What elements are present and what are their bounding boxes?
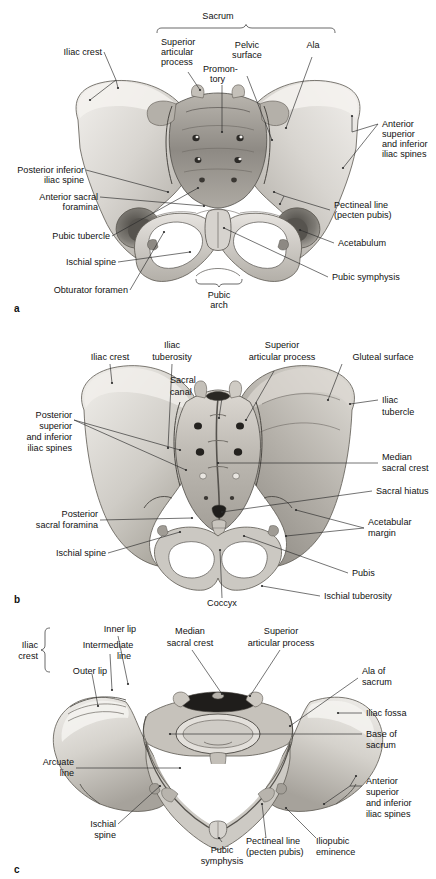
label-c-ala-of-sacrum-1: Ala of: [362, 666, 386, 676]
label-a-pelvic-surface-1: Pelvic: [235, 40, 260, 50]
label-a-acetabulum: Acetabulum: [338, 238, 386, 248]
label-b-ischial-tuberosity: Ischial tuberosity: [324, 591, 392, 601]
label-a-ala: Ala: [306, 40, 320, 50]
label-b-coccyx: Coccyx: [207, 598, 237, 608]
label-a-pectineal-line-2: (pecten pubis): [334, 210, 392, 220]
label-b-iliac-crest: Iliac crest: [91, 352, 130, 362]
label-b-posterior-spines-1: Posterior: [36, 410, 72, 420]
label-b-sacral-hiatus: Sacral hiatus: [376, 486, 429, 496]
label-a-anterior-spines-2: superior: [382, 129, 415, 139]
pelvis-anterior-illustration: [76, 80, 360, 281]
label-b-median-sacral-crest-2: sacral crest: [382, 463, 429, 473]
label-b-pubis: Pubis: [352, 568, 375, 578]
panel-letter-b: b: [14, 594, 20, 605]
label-b-posterior-sacral-foramina-2: sacral foramina: [36, 520, 99, 530]
label-c-intermediate-line-2: line: [117, 651, 131, 661]
label-b-acetabular-margin-1: Acetabular: [368, 517, 411, 527]
sacrum-brace: [157, 25, 335, 34]
label-a-anterior-spines-3: and inferior: [382, 139, 428, 149]
label-c-iliac-crest-2: crest: [18, 651, 38, 661]
label-a-anterior-sacral-foramina-1: Anterior sacral: [39, 192, 98, 202]
label-b-acetabular-margin-2: margin: [368, 528, 396, 538]
label-pubic-arch-line1: Pubic: [208, 290, 231, 300]
label-c-iliopubic-eminence-1: Iliopubic: [316, 836, 350, 846]
label-c-median-sacral-crest-1: Median: [175, 626, 205, 636]
label-c-pectineal-line-1: Pectineal line: [246, 836, 300, 846]
label-a-anterior-spines-4: iliac spines: [382, 149, 427, 159]
label-pubic-arch-line2: arch: [210, 300, 228, 310]
panel-c-svg: Iliac crest: [0, 608, 436, 879]
iliac-crest-brace: [41, 628, 50, 672]
label-a-anterior-spines-1: Anterior: [382, 119, 414, 129]
label-b-iliac-tubercle-2: tubercle: [382, 407, 414, 417]
label-c-anterior-spines-3: and inferior: [366, 798, 412, 808]
label-a-pubic-tubercle: Pubic tubercle: [52, 231, 110, 241]
label-b-superior-articular-process-2: articular process: [249, 352, 316, 362]
label-b-posterior-spines-3: and inferior: [27, 432, 73, 442]
panel-a-svg: Sacrum Pubic arch: [0, 0, 436, 318]
label-a-obturator-foramen: Obturator foramen: [54, 285, 128, 295]
label-c-base-of-sacrum-2: sacrum: [366, 740, 396, 750]
label-a-posterior-inferior-iliac-spine-2: iliac spine: [44, 175, 84, 185]
panel-a-anterior-view: Sacrum Pubic arch: [0, 0, 436, 318]
label-a-superior-articular-process-3: process: [161, 57, 193, 67]
label-c-base-of-sacrum-1: Base of: [366, 729, 397, 739]
label-a-pelvic-surface-2: surface: [232, 50, 262, 60]
label-b-gluteal-surface: Gluteal surface: [352, 352, 413, 362]
label-c-ischial-spine-1: Ischial: [90, 819, 116, 829]
label-c-superior-articular-process-2: articular process: [248, 638, 315, 648]
label-c-pectineal-line-2: (pecten pubis): [246, 847, 304, 857]
label-c-arcuate-line-1: Arcuate: [43, 757, 74, 767]
label-b-iliac-tuberosity-2: tuberosity: [152, 352, 192, 362]
label-a-anterior-sacral-foramina-2: foramina: [63, 202, 99, 212]
pubic-arch-brace: [196, 279, 242, 287]
label-c-pubic-symphysis-1: Pubic: [211, 845, 234, 855]
label-c-iliac-crest-1: Iliac: [22, 640, 39, 650]
label-b-iliac-tubercle-1: Iliac: [382, 395, 399, 405]
pelvis-anatomy-figure: Sacrum Pubic arch: [0, 0, 436, 879]
label-c-intermediate-line-1: Intermediate: [83, 640, 134, 650]
label-c-anterior-spines-4: iliac spines: [366, 809, 411, 819]
label-a-ischial-spine: Ischial spine: [66, 257, 116, 267]
label-c-ala-of-sacrum-2: sacrum: [362, 677, 392, 687]
label-c-anterior-spines-1: Anterior: [366, 776, 398, 786]
pelvis-posterior-illustration: [82, 366, 355, 591]
label-c-iliopubic-eminence-2: eminence: [316, 847, 355, 857]
label-c-arcuate-line-2: line: [60, 768, 74, 778]
panel-b-posterior-view: Iliac crest Iliac tuberosity Sacral cana…: [0, 318, 436, 608]
label-a-superior-articular-process-2: articular: [161, 47, 193, 57]
label-a-posterior-inferior-iliac-spine-1: Posterior inferior: [17, 165, 84, 175]
label-b-superior-articular-process-1: Superior: [265, 340, 299, 350]
label-c-iliac-fossa: Iliac fossa: [366, 708, 407, 718]
label-sacrum: Sacrum: [202, 11, 233, 21]
label-b-ischial-spine: Ischial spine: [56, 548, 106, 558]
label-b-posterior-spines-4: iliac spines: [28, 443, 73, 453]
label-a-promontory-1: Promon-: [203, 64, 238, 74]
label-c-superior-articular-process-1: Superior: [264, 626, 298, 636]
label-c-pubic-symphysis-2: symphysis: [201, 856, 244, 866]
label-a-superior-articular-process-1: Superior: [161, 37, 195, 47]
panel-c-superior-view: Iliac crest: [0, 608, 436, 879]
label-c-anterior-spines-2: superior: [366, 787, 399, 797]
panel-letter-c: c: [14, 864, 20, 875]
label-a-pectineal-line-1: Pectineal line: [334, 200, 388, 210]
label-a-pubic-symphysis: Pubic symphysis: [332, 272, 400, 282]
label-b-median-sacral-crest-1: Median: [382, 452, 412, 462]
label-b-iliac-tuberosity-1: Iliac: [164, 340, 181, 350]
label-a-promontory-2: tory: [210, 74, 226, 84]
label-c-median-sacral-crest-2: sacral crest: [167, 638, 214, 648]
label-b-posterior-spines-2: superior: [39, 421, 72, 431]
label-c-inner-lip: Inner lip: [104, 624, 136, 634]
label-b-sacral-canal-1: Sacral: [170, 375, 196, 385]
label-b-sacral-canal-2: canal: [170, 387, 192, 397]
label-b-posterior-sacral-foramina-1: Posterior: [62, 509, 98, 519]
panel-b-svg: Iliac crest Iliac tuberosity Sacral cana…: [0, 318, 436, 608]
label-c-ischial-spine-2: spine: [94, 830, 116, 840]
label-c-outer-lip: Outer lip: [73, 666, 107, 676]
panel-letter-a: a: [14, 303, 20, 314]
label-a-iliac-crest: Iliac crest: [64, 47, 103, 57]
